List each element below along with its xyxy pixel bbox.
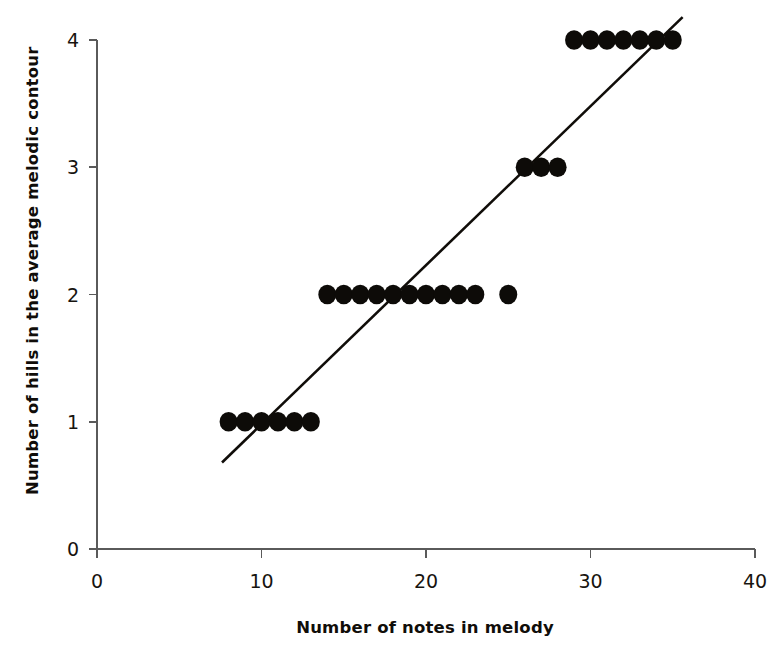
x-axis-ticks: 010203040 <box>91 549 767 592</box>
y-axis-ticks: 01234 <box>67 29 97 560</box>
data-point <box>631 30 649 50</box>
x-tick-label: 20 <box>414 570 438 592</box>
x-tick-label: 30 <box>578 570 602 592</box>
regression-trend-line <box>222 17 683 462</box>
y-tick-label: 4 <box>67 29 79 51</box>
data-point <box>302 412 320 432</box>
chart-figure: Number of hills in the average melodic c… <box>0 0 782 656</box>
data-point <box>220 412 238 432</box>
x-tick-label: 10 <box>249 570 273 592</box>
data-point <box>368 285 386 305</box>
x-tick-label: 0 <box>91 570 103 592</box>
y-tick-label: 0 <box>67 538 79 560</box>
data-point <box>549 157 567 177</box>
y-axis-title: Number of hills in the average melodic c… <box>23 46 42 495</box>
data-point <box>351 285 369 305</box>
data-point <box>318 285 336 305</box>
data-point <box>236 412 254 432</box>
data-point <box>664 30 682 50</box>
data-point <box>335 285 353 305</box>
data-point <box>285 412 303 432</box>
data-point <box>450 285 468 305</box>
data-point <box>647 30 665 50</box>
data-point <box>384 285 402 305</box>
data-point-group <box>220 30 682 431</box>
data-point <box>565 30 583 50</box>
y-tick-label: 1 <box>67 411 79 433</box>
data-point <box>516 157 534 177</box>
data-point <box>433 285 451 305</box>
data-point <box>466 285 484 305</box>
data-point <box>253 412 271 432</box>
data-point <box>269 412 287 432</box>
y-tick-label: 3 <box>67 156 79 178</box>
data-point <box>614 30 632 50</box>
x-axis-title: Number of notes in melody <box>296 618 554 637</box>
scatter-plot-svg: Number of hills in the average melodic c… <box>0 0 782 656</box>
data-point <box>582 30 600 50</box>
data-point <box>598 30 616 50</box>
data-point <box>532 157 550 177</box>
y-tick-label: 2 <box>67 284 79 306</box>
x-tick-label: 40 <box>743 570 767 592</box>
data-point <box>499 285 517 305</box>
data-point <box>417 285 435 305</box>
data-point <box>401 285 419 305</box>
